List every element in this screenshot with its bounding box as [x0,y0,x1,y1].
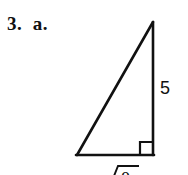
radicand-value: 8 [121,169,130,175]
triangle-hypotenuse [77,22,153,155]
right-angle-marker-icon [140,142,152,154]
base-leg-length-label: 8 [99,162,159,175]
base-leg-label-clip: 8 [99,162,159,175]
worksheet-figure-page: 3. a. 5 8 [0,0,188,175]
vertical-leg-length-label: 5 [160,79,170,97]
radical-sign-icon [100,166,139,175]
